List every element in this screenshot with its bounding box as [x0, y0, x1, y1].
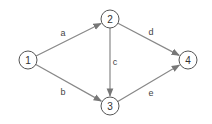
nodes-group: 1234: [19, 10, 197, 115]
edge-c: c: [110, 28, 118, 96]
edge-label: a: [60, 28, 65, 38]
node-3: 3: [101, 97, 119, 115]
directed-graph: abcde 1234: [0, 0, 212, 124]
node-1: 1: [19, 51, 37, 69]
edge-e: e: [118, 65, 180, 101]
edge-label: b: [60, 87, 65, 97]
node-label: 1: [25, 55, 31, 66]
node-label: 4: [185, 55, 191, 66]
node-4: 4: [179, 51, 197, 69]
node-2: 2: [101, 10, 119, 28]
edge-a: a: [36, 23, 101, 56]
edge-d: d: [118, 23, 179, 55]
edge-label: e: [148, 88, 153, 98]
edge-label: c: [113, 57, 118, 67]
edge-b: b: [36, 64, 101, 101]
edge-arrow: [36, 64, 101, 101]
node-label: 2: [107, 14, 113, 25]
edge-arrow: [36, 23, 101, 56]
edges-group: abcde: [36, 23, 180, 101]
edge-label: d: [148, 27, 153, 37]
node-label: 3: [107, 101, 113, 112]
